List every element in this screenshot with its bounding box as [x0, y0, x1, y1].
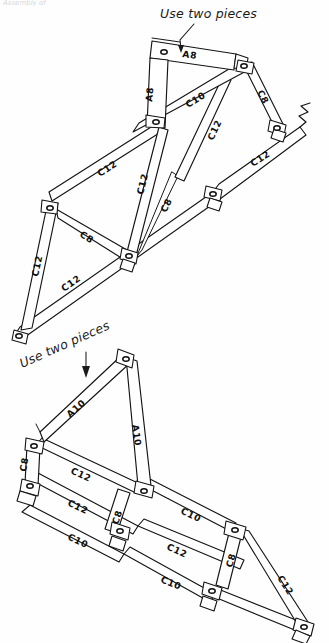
note-top-text: Use two pieces: [160, 6, 257, 21]
label-l-c10-lower: C10: [66, 531, 90, 550]
truss-upper: A8 A8 C10 C8 C12 C12 C8 C12 C12 C8 C12 C…: [12, 24, 310, 344]
truss-drawing-canvas: Assembly of: [0, 0, 329, 643]
note-leader-bottom: [82, 352, 90, 378]
member-l-c10-lower: [124, 547, 215, 602]
cropped-header-text: Assembly of: [3, 0, 46, 6]
label-a10-vert: A10: [130, 424, 144, 447]
member-l-a10-vert: [126, 357, 151, 486]
truss-lower: A10 A10 C12 C8 C12 C10 C8 C12 C10 C8 C12…: [17, 349, 314, 643]
label-a8-top: A8: [182, 48, 198, 61]
break-symbol-upper: [299, 103, 310, 127]
note-top-group: Use two pieces: [160, 6, 257, 21]
label-a8-vert: A8: [143, 86, 155, 102]
truss-diagram: A8 A8 C10 C8 C12 C12 C8 C12 C12 C8 C12 C…: [0, 0, 329, 643]
